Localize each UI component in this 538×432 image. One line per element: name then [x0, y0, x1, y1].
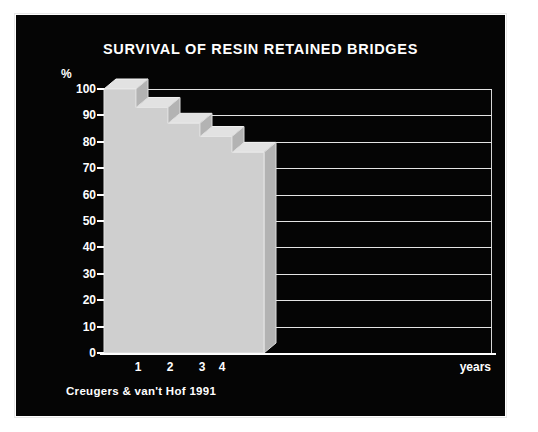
y-axis-unit-label: %	[61, 67, 72, 81]
x-axis-tick-label: 2	[167, 360, 174, 374]
slide-canvas: SURVIVAL OF RESIN RETAINED BRIDGES % 010…	[16, 15, 505, 416]
x-axis-line	[100, 353, 496, 355]
y-axis-tick-mark	[97, 326, 104, 328]
step-face	[264, 142, 276, 353]
y-axis-tick-label: 40	[83, 240, 96, 254]
x-axis-tick-label: 3	[199, 360, 206, 374]
y-axis-tick-label: 30	[83, 267, 96, 281]
y-axis-tick-mark	[97, 246, 104, 248]
y-axis-labels: 0102030405060708090100	[58, 89, 96, 353]
x-axis-tick-label: 1	[135, 360, 142, 374]
plot-area	[104, 89, 492, 353]
y-axis-tick-mark	[97, 167, 104, 169]
y-axis-tick-label: 70	[83, 161, 96, 175]
y-axis-tick-mark	[97, 299, 104, 301]
y-axis-tick-label: 80	[83, 135, 96, 149]
y-axis-tick-label: 20	[83, 293, 96, 307]
y-axis-tick-label: 50	[83, 214, 96, 228]
y-axis-tick-mark	[97, 114, 104, 116]
survival-step-area	[104, 89, 492, 353]
y-axis-tick-mark	[97, 141, 104, 143]
y-axis-tick-marks	[97, 89, 105, 353]
y-axis-tick-mark	[97, 88, 104, 90]
x-axis-tick-label: 4	[219, 360, 226, 374]
y-axis-tick-label: 90	[83, 108, 96, 122]
source-caption: Creugers & van't Hof 1991	[66, 385, 216, 397]
y-axis-tick-label: 10	[83, 320, 96, 334]
y-axis-tick-label: 0	[89, 346, 96, 360]
chart-title: SURVIVAL OF RESIN RETAINED BRIDGES	[16, 41, 505, 57]
x-axis-title: years	[460, 360, 491, 374]
y-axis-tick-mark	[97, 194, 104, 196]
y-axis-tick-label: 60	[83, 188, 96, 202]
y-axis-tick-mark	[97, 273, 104, 275]
y-axis-tick-label: 100	[76, 82, 96, 96]
y-axis-tick-mark	[97, 220, 104, 222]
